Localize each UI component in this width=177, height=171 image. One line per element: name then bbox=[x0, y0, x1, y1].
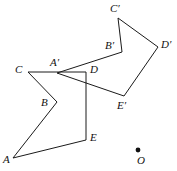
vertex-label-a-prime: A′ bbox=[50, 57, 59, 68]
vertex-label-e-prime: E′ bbox=[117, 100, 126, 111]
vertex-label-e: E bbox=[90, 132, 97, 143]
vertex-label-c: C bbox=[15, 64, 22, 75]
geometry-canvas bbox=[0, 0, 177, 171]
vertex-label-a: A bbox=[3, 154, 10, 165]
figure-background bbox=[0, 0, 177, 171]
center-of-rotation-dot bbox=[136, 148, 141, 153]
center-of-rotation-label: O bbox=[137, 155, 145, 166]
vertex-label-d-prime: D′ bbox=[161, 39, 171, 50]
vertex-label-b: B bbox=[41, 97, 48, 108]
vertex-label-c-prime: C′ bbox=[110, 3, 120, 14]
rotation-figure: A B C D E A′ B′ C′ D′ E′ O bbox=[0, 0, 177, 171]
vertex-label-d: D bbox=[90, 64, 98, 75]
vertex-label-b-prime: B′ bbox=[105, 40, 114, 51]
